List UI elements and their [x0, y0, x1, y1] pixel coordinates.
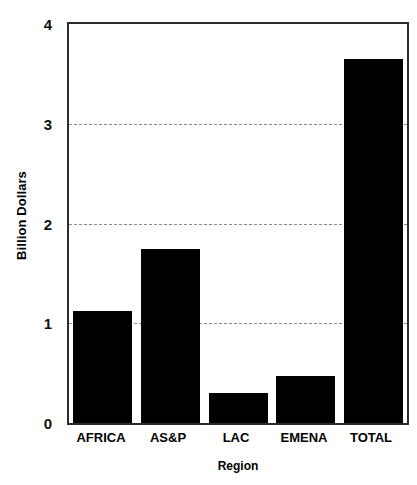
y-axis-tick-labels: 4 3 2 1 0 — [0, 0, 57, 485]
bar-africa — [73, 311, 132, 423]
x-axis-tick-labels: AFRICA AS&P LAC EMENA TOTAL — [0, 430, 417, 454]
bar-emena — [276, 376, 335, 423]
bars-layer — [69, 24, 407, 423]
x-tick-label-total: TOTAL — [321, 430, 417, 445]
x-axis-title: Region — [67, 459, 409, 473]
y-tick-label-2: 2 — [0, 216, 57, 233]
y-tick-label-0: 0 — [0, 415, 57, 432]
y-tick-label-1: 1 — [0, 315, 57, 332]
y-tick-label-4: 4 — [0, 16, 57, 33]
y-tick-label-3: 3 — [0, 116, 57, 133]
plot-area — [67, 22, 409, 425]
bar-lac — [209, 393, 268, 423]
bar-chart: Billion Dollars 4 3 2 1 0 AFRICA AS&P LA… — [0, 0, 417, 485]
bar-asp — [141, 249, 200, 423]
bar-total — [344, 59, 403, 423]
